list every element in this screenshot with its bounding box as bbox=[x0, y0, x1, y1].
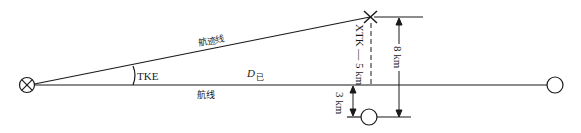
tke-label: TKE bbox=[137, 70, 159, 82]
crossed-circle-icon bbox=[20, 78, 35, 93]
xtk-label: XTK — 5 km bbox=[354, 24, 366, 86]
distance-flown-label: D bbox=[246, 67, 255, 79]
dim-3km-label: 3 km bbox=[334, 92, 346, 115]
offset-point-circle-icon bbox=[361, 109, 377, 125]
tke-angle-arc bbox=[133, 66, 135, 85]
distance-flown-subscript: 已 bbox=[256, 73, 264, 82]
destination-circle-icon bbox=[547, 77, 563, 93]
dim-8km-label: 8 km bbox=[392, 46, 404, 69]
course-line-label: 航线 bbox=[197, 89, 215, 100]
navigation-diagram: 航迹线 航线 TKE D 已 XTK — 5 km 8 km 3 km bbox=[0, 0, 581, 133]
dimension-3km bbox=[350, 86, 356, 116]
track-line-label: 航迹线 bbox=[197, 32, 226, 48]
track-line bbox=[35, 17, 371, 84]
